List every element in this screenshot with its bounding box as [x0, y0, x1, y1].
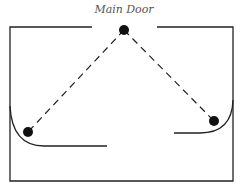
dashed-paths [28, 30, 214, 132]
main-door-label: Main Door [93, 3, 154, 16]
outer-wall [10, 27, 233, 181]
right-corner-arc [174, 100, 233, 133]
left-corner-node [23, 127, 33, 137]
door-node [119, 25, 129, 35]
path-door-to-right [124, 30, 214, 121]
left-corner-arc [10, 106, 107, 146]
corner-arcs [10, 100, 233, 146]
path-door-to-left [28, 30, 124, 132]
room-walls [10, 27, 233, 181]
right-corner-node [209, 116, 219, 126]
floor-plan-diagram: Main Door [0, 0, 241, 189]
nodes [23, 25, 219, 137]
